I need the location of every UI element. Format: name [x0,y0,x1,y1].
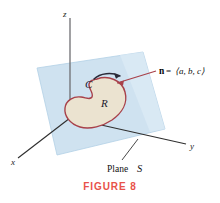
normal-vector-label-group: n = ⟨a, b, c⟩ [159,66,205,76]
figure-8-diagram: z y x R C n = ⟨a, b, c⟩ [0,0,220,203]
normal-vector-components: ⟨a, b, c⟩ [175,66,205,76]
curve-c-label: C [85,78,93,90]
plane-s-annotation: Plane S [107,139,143,174]
normal-vector-equals: = [166,66,171,76]
z-axis-label: z [62,9,67,19]
figure-8-container: z y x R C n = ⟨a, b, c⟩ [0,0,220,203]
figure-caption: FIGURE 8 [0,181,220,192]
plane-s-leader-line [122,139,138,160]
plane-s-label-symbol: S [137,163,143,174]
normal-vector-symbol: n [159,66,165,76]
plane-s-label-text: Plane [107,164,128,174]
y-axis-label: y [189,141,194,151]
region-r-label: R [100,97,108,109]
x-axis-label: x [10,157,15,167]
